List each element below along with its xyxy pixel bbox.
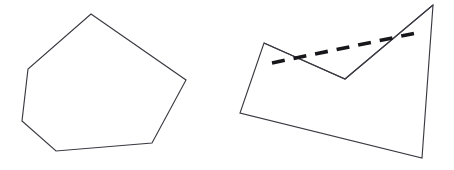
non-convex-polygon bbox=[240, 5, 433, 158]
left-shape-group bbox=[22, 14, 186, 151]
polygon-figure-svg bbox=[0, 0, 454, 170]
right-shape-group bbox=[240, 5, 433, 158]
figure-canvas bbox=[0, 0, 454, 170]
convex-polygon bbox=[22, 14, 186, 151]
